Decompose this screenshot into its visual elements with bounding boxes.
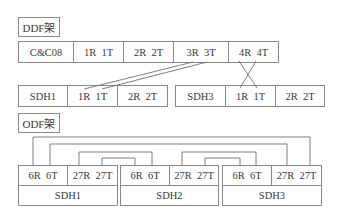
ddf-wire-4r-1t <box>239 61 257 88</box>
odf-sdh1-port-6: 6R 6T <box>18 165 68 186</box>
ddf-cc08-cell-name: C&C08 <box>18 41 74 63</box>
odf-sdh2-port-6: 6R 6T <box>120 165 170 186</box>
odf-sdh1-name: SDH1 <box>18 185 118 206</box>
odf-wire-sdh1-6r-sdh3-27t <box>33 137 310 165</box>
ddf-sdh1-cell-2: 2R 2T <box>117 85 168 107</box>
ddf-sdh1-cell-name: SDH1 <box>18 85 68 107</box>
odf-wire-sdh1-27r-sdh2-6t <box>79 152 152 165</box>
odf-wire-sdh2-27t-sdh3-6r <box>205 158 240 165</box>
odf-sdh3-name: SDH3 <box>222 185 322 206</box>
ddf-cc08-cell-1: 1R 1T <box>73 41 124 63</box>
ddf-wire-4t-1r <box>240 61 256 88</box>
odf-sdh2-port-27: 27R 27T <box>169 165 219 186</box>
odf-wire-sdh2-27r-sdh3-6t <box>182 152 256 165</box>
ddf-title: DDF架 <box>18 17 60 37</box>
odf-sdh3-port-6: 6R 6T <box>222 165 272 186</box>
ddf-sdh3-cell-2: 2R 2T <box>275 85 325 107</box>
odf-sdh3-port-27: 27R 27T <box>271 165 322 186</box>
ddf-cc08-cell-3: 3R 3T <box>173 41 229 63</box>
odf-sdh1-port-27: 27R 27T <box>67 165 118 186</box>
odf-title: ODF架 <box>18 113 60 133</box>
ddf-cc08-cell-2: 2R 2T <box>123 41 174 63</box>
ddf-cc08-cell-4: 4R 4T <box>228 41 279 63</box>
ddf-sdh1-cell-1: 1R 1T <box>67 85 118 107</box>
ddf-sdh3-cell-name: SDH3 <box>175 85 226 107</box>
odf-wire-sdh1-27t-sdh2-6r <box>102 158 135 165</box>
ddf-sdh3-cell-1: 1R 1T <box>225 85 276 107</box>
odf-sdh2-name: SDH2 <box>120 185 219 206</box>
odf-wire-sdh1-6t-sdh3-27r <box>50 144 287 165</box>
